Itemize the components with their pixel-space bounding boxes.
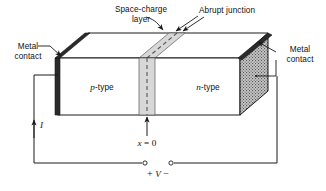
metal-contact-left-label: Metal contact (6, 42, 50, 61)
top-face (58, 33, 268, 58)
origin-label: x = 0 (125, 139, 169, 149)
diagram-artwork (0, 0, 326, 191)
pn-junction-figure: Space-charge layer Abrupt junction Metal… (0, 0, 326, 191)
terminal-left-icon (143, 161, 147, 165)
terminal-right-icon (169, 161, 173, 165)
n-type-region-label: n-type (180, 83, 236, 93)
metal-contact-right-label: Metal contact (277, 45, 323, 64)
abrupt-junction-label: Abrupt junction (199, 6, 255, 16)
voltage-source-label: + V − (128, 169, 188, 180)
current-label: I (40, 121, 43, 131)
space-charge-layer-label: Space-charge layer (104, 5, 178, 24)
p-type-region-label: p-type (74, 83, 130, 93)
